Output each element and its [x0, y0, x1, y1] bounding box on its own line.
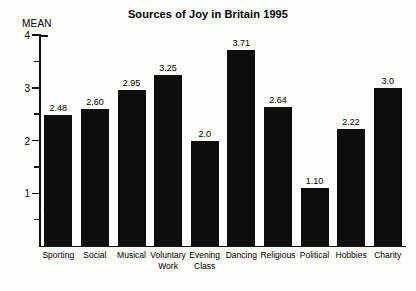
- bar: [264, 107, 292, 246]
- bar-value-label: 2.22: [331, 117, 371, 127]
- bar-value-label: 2.48: [38, 103, 78, 113]
- bar: [301, 188, 329, 246]
- y-tick-label: 4: [8, 30, 30, 41]
- x-axis-category-label: Charity: [366, 250, 409, 261]
- bar-value-label: 2.60: [75, 97, 115, 107]
- bar-value-label: 1.10: [295, 176, 335, 186]
- bar: [227, 50, 255, 246]
- bar: [44, 115, 72, 246]
- y-tick-label: 2: [8, 135, 30, 146]
- bar: [374, 88, 402, 246]
- bar-value-label: 3.71: [221, 38, 261, 48]
- bar-chart: Sources of Joy in Britain 1995 MEAN 4321…: [0, 0, 416, 291]
- bar: [191, 141, 219, 247]
- bar-value-label: 2.0: [185, 129, 225, 139]
- bar: [118, 90, 146, 246]
- chart-title: Sources of Joy in Britain 1995: [0, 8, 416, 20]
- bar-value-label: 3.25: [148, 63, 188, 73]
- bar-value-label: 3.0: [368, 76, 408, 86]
- bar: [81, 109, 109, 246]
- y-tick-label: 1: [8, 188, 30, 199]
- y-axis-label: MEAN: [22, 18, 52, 29]
- bar: [337, 129, 365, 246]
- bar-value-label: 2.64: [258, 95, 298, 105]
- bar: [154, 75, 182, 246]
- y-tick-label: 3: [8, 82, 30, 93]
- bar-value-label: 2.95: [112, 78, 152, 88]
